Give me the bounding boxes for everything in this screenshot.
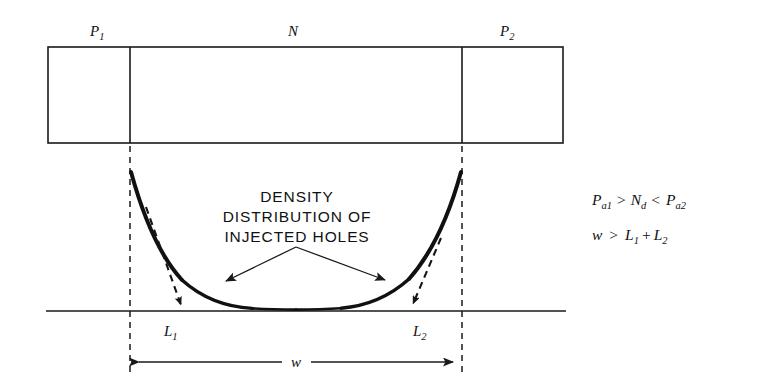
equation-block: Pa1>Nd<Pa2 w>L1+L2 <box>591 191 687 246</box>
intercept-labels: L1 L2 <box>163 323 427 342</box>
region-labels: P1 N P2 <box>89 23 515 42</box>
figure-root: P1 N P2 <box>0 0 757 387</box>
region-label-p1: P1 <box>89 23 104 42</box>
region-label-n: N <box>287 23 299 39</box>
projection-guides <box>130 146 462 375</box>
callout-arrow-left <box>226 247 296 281</box>
structure-outline <box>48 47 563 143</box>
semiconductor-density-diagram: P1 N P2 <box>0 0 757 387</box>
equation-width: w>L1+L2 <box>592 226 668 246</box>
curve-segment-trough-left <box>252 308 296 309</box>
width-dimension: w <box>139 354 453 370</box>
intercept-label-l2: L2 <box>412 323 427 342</box>
curve-segment-right-upper <box>409 172 461 279</box>
callout-line-3: INJECTED HOLES <box>224 228 369 245</box>
equation-carrier-density: Pa1>Nd<Pa2 <box>591 191 687 211</box>
curve-segment-trough-right <box>296 308 341 309</box>
callout-line-1: DENSITY <box>260 188 333 205</box>
region-label-p2: P2 <box>499 23 515 42</box>
callout-annotation: DENSITY DISTRIBUTION OF INJECTED HOLES <box>223 188 385 281</box>
callout-line-2: DISTRIBUTION OF <box>223 208 372 225</box>
dimension-label-w: w <box>291 354 301 370</box>
intercept-label-l1: L1 <box>163 323 178 342</box>
structure-bar <box>48 47 563 143</box>
curve-segment-left-lower <box>182 280 252 308</box>
callout-arrow-right <box>296 247 385 280</box>
curve-segment-left-upper <box>131 172 182 280</box>
curve-segment-right-lower <box>341 279 409 308</box>
tangent-line-left <box>146 207 181 305</box>
